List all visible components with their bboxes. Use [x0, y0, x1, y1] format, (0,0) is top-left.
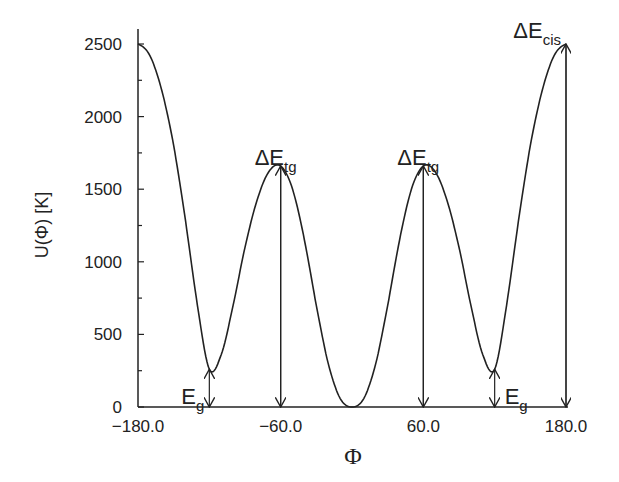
y-tick-label: 2000 — [84, 108, 122, 127]
svg-text:Eg: Eg — [505, 384, 528, 414]
potential-curve — [138, 44, 566, 407]
x-tick-label: −180.0 — [112, 417, 164, 436]
x-tick-label: 60.0 — [407, 417, 440, 436]
x-axis-label: Φ — [344, 443, 362, 469]
y-axis-label: U(Φ) [K] — [32, 192, 52, 258]
x-tick-label: −60.0 — [259, 417, 302, 436]
axes — [138, 29, 568, 407]
potential-energy-chart: 05001000150020002500−180.0−60.060.0180.0… — [0, 0, 619, 482]
x-tick-label: 180.0 — [545, 417, 588, 436]
annotation-delta-E-cis: ΔEcis — [513, 18, 566, 407]
svg-text:ΔEtg: ΔEtg — [397, 145, 439, 175]
energy-annotations: EgΔEtgΔEtgEgΔEcis — [181, 18, 566, 414]
y-tick-label: 2500 — [84, 35, 122, 54]
svg-text:ΔEcis: ΔEcis — [513, 18, 561, 48]
annotation-delta-E-tg: ΔEtg — [397, 145, 439, 407]
svg-text:Eg: Eg — [181, 384, 204, 414]
y-tick-label: 500 — [94, 325, 122, 344]
y-tick-label: 1500 — [84, 180, 122, 199]
y-tick-label: 1000 — [84, 253, 122, 272]
svg-text:ΔEtg: ΔEtg — [255, 145, 297, 175]
tick-labels: 05001000150020002500−180.0−60.060.0180.0 — [84, 35, 587, 436]
y-tick-label: 0 — [113, 398, 122, 417]
